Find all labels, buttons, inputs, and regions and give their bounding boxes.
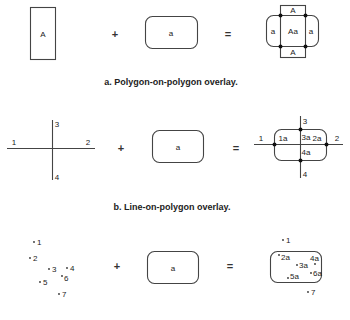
point-5 xyxy=(39,281,41,283)
result-point-label-4a: 4a xyxy=(310,254,319,263)
intersection-node xyxy=(299,128,303,132)
overlay-diagram: A + a = A A a Aa a a. Polygon-on-polygon… xyxy=(0,0,350,320)
equals-operator: = xyxy=(225,28,231,40)
point-label-1: 1 xyxy=(37,238,42,247)
result-point-4a xyxy=(314,263,316,265)
result-point-label-6a: 6a xyxy=(313,269,322,278)
result-label-3: 3 xyxy=(303,117,308,126)
line-label-1: 1 xyxy=(12,138,17,147)
result-label-right: a xyxy=(309,27,314,36)
result-label-top: A xyxy=(290,6,296,15)
point-label-6: 6 xyxy=(64,274,69,283)
result-label-4a: 4a xyxy=(302,148,311,157)
result-label-left: a xyxy=(271,27,276,36)
result-point-1 xyxy=(282,239,284,241)
result-line-overlay: 1 2 3 4 1a 2a 3a 4a xyxy=(254,116,343,179)
polygon-a-label: a xyxy=(171,264,176,273)
intersection-node xyxy=(273,143,277,147)
result-point-overlay: 1 7 2a 3a 4a 5a 6a xyxy=(271,236,323,297)
result-point-label-2a: 2a xyxy=(281,253,290,262)
result-label-2: 2 xyxy=(335,134,340,143)
result-point-7 xyxy=(307,291,309,293)
plus-operator: + xyxy=(118,142,124,154)
panel-polygon-on-polygon: A + a = A A a Aa a a. Polygon-on-polygon… xyxy=(31,6,319,88)
point-label-3: 3 xyxy=(52,265,57,274)
result-point-label-1: 1 xyxy=(286,236,291,245)
polygon-a-label: a xyxy=(176,143,181,152)
result-point-label-7: 7 xyxy=(311,288,316,297)
point-3 xyxy=(48,268,50,270)
result-label-4: 4 xyxy=(303,170,308,179)
intersection-node xyxy=(304,14,308,18)
plus-operator: + xyxy=(112,28,118,40)
point-label-5: 5 xyxy=(43,278,48,287)
result-point-6a xyxy=(310,272,312,274)
result-point-2a xyxy=(278,254,280,256)
result-label-3a: 3a xyxy=(302,133,311,142)
result-point-3a xyxy=(296,264,298,266)
polygon-A-label: A xyxy=(40,30,46,39)
result-label-2a: 2a xyxy=(313,134,322,143)
polygon-a-label: a xyxy=(169,29,174,38)
point-label-2: 2 xyxy=(33,254,38,263)
line-label-4: 4 xyxy=(55,173,60,182)
intersection-node xyxy=(325,143,329,147)
point-2 xyxy=(29,257,31,259)
line-label-3: 3 xyxy=(55,120,60,129)
result-label-center: Aa xyxy=(288,27,298,36)
result-label-bottom: A xyxy=(290,48,296,57)
result-label-1: 1 xyxy=(259,134,264,143)
line-label-2: 2 xyxy=(86,138,91,147)
intersection-node xyxy=(304,45,308,49)
point-7 xyxy=(58,293,60,295)
result-polygon-overlay: A A a Aa a xyxy=(267,6,319,58)
equals-operator: = xyxy=(233,142,239,154)
plus-operator: + xyxy=(114,260,120,272)
caption-a: a. Polygon-on-polygon overlay. xyxy=(104,77,237,87)
point-4 xyxy=(66,267,68,269)
point-label-7: 7 xyxy=(62,290,67,299)
caption-b: b. Line-on-polygon overlay. xyxy=(114,202,231,212)
panel-line-on-polygon: 1 2 3 4 + a = 1 2 3 4 1a 2a 3a 4a b. Lin… xyxy=(7,116,343,212)
intersection-node xyxy=(279,45,283,49)
result-label-1a: 1a xyxy=(279,134,288,143)
result-point-label-3a: 3a xyxy=(299,261,308,270)
point-1 xyxy=(33,241,35,243)
result-point-label-5a: 5a xyxy=(290,272,299,281)
intersection-node xyxy=(279,14,283,18)
intersection-node xyxy=(299,159,303,163)
panel-point-in-polygon: 1 2 3 4 5 6 7 + a = 1 7 2a xyxy=(29,236,322,299)
equals-operator: = xyxy=(227,260,233,272)
point-label-4: 4 xyxy=(70,264,75,273)
result-point-5a xyxy=(287,277,289,279)
input-points: 1 2 3 4 5 6 7 xyxy=(29,238,75,299)
point-6 xyxy=(61,275,63,277)
